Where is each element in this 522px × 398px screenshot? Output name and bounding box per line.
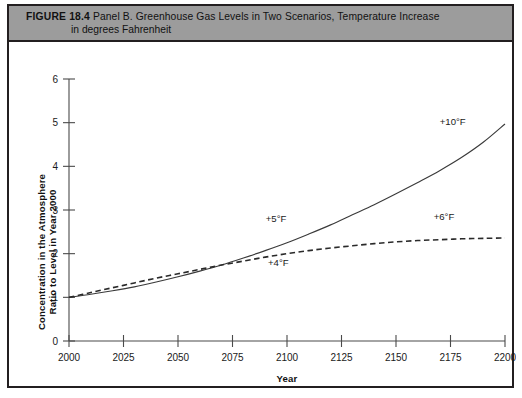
y-tick-label: 3 [52, 205, 58, 216]
figure-container: FIGURE 18.4 Panel B. Greenhouse Gas Leve… [0, 0, 522, 398]
x-tick-label: 2000 [58, 352, 81, 363]
figure-number-label: FIGURE 18.4 [26, 11, 90, 22]
x-axis-ticks: 200020252050207521002125215021752200 [58, 335, 516, 363]
figure-caption-line2: in degrees Fahrenheit [71, 24, 171, 37]
figure-caption-band: FIGURE 18.4 Panel B. Greenhouse Gas Leve… [9, 6, 512, 42]
plot-area: Concentration in the Atmosphere Ratio to… [9, 42, 512, 388]
y-axis-title-line1: Concentration in the Atmosphere [36, 174, 47, 330]
figure-frame: FIGURE 18.4 Panel B. Greenhouse Gas Leve… [7, 4, 514, 388]
x-tick-label: 2050 [167, 352, 190, 363]
x-tick-label: 2025 [112, 352, 135, 363]
x-tick-label: 2150 [385, 352, 408, 363]
series-annotation: +6°F [434, 211, 455, 222]
figure-caption-line1: Panel B. Greenhouse Gas Levels in Two Sc… [93, 11, 440, 22]
y-tick-label: 0 [52, 336, 58, 347]
y-tick-label: 5 [52, 117, 58, 128]
figure-caption: FIGURE 18.4 Panel B. Greenhouse Gas Leve… [26, 11, 500, 24]
x-tick-label: 2100 [276, 352, 299, 363]
x-axis-title: Year [277, 373, 298, 384]
x-tick-label: 2075 [221, 352, 244, 363]
y-tick-label: 1 [52, 292, 58, 303]
y-tick-label: 4 [52, 161, 58, 172]
line-chart: Concentration in the Atmosphere Ratio to… [9, 42, 516, 388]
x-tick-label: 2175 [439, 352, 462, 363]
x-tick-label: 2125 [330, 352, 353, 363]
series-annotation: +4°F [268, 257, 289, 268]
series-annotation: +10°F [440, 116, 466, 127]
y-tick-label: 2 [52, 248, 58, 259]
series-annotations: +5°F+10°F+4°F+6°F [266, 116, 466, 268]
series-annotation: +5°F [266, 213, 287, 224]
x-tick-label: 2200 [494, 352, 516, 363]
y-tick-label: 6 [52, 74, 58, 85]
